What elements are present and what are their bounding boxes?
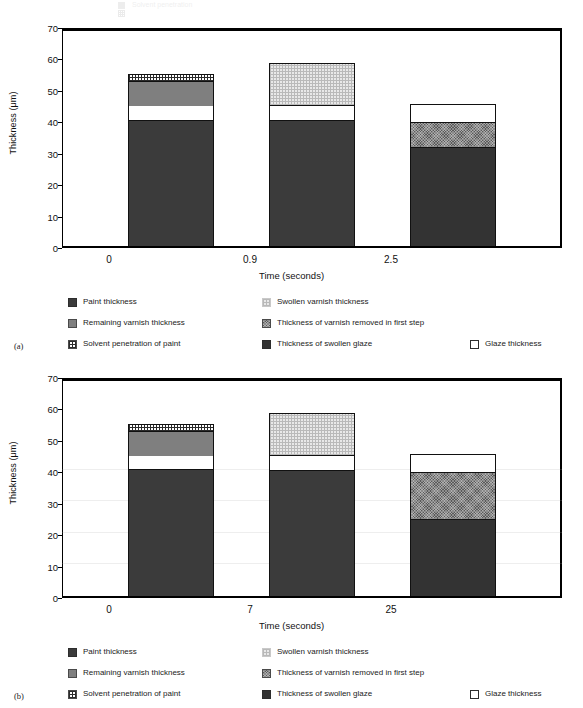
legend-swatch-varnish-removed-icon: [262, 669, 271, 678]
y-tick-20: 20: [28, 530, 58, 541]
legend-swatch-remaining-varnish-icon: [68, 319, 77, 328]
segment-glaze-thickness: [128, 456, 214, 470]
legend-a: Paint thickness Remaining varnish thickn…: [0, 297, 583, 361]
legend-label-swollen-glaze: Thickness of swollen glaze: [277, 339, 372, 349]
plot-area-a: Thickness (μm) 0 10 20 30 40 50 60 70: [0, 14, 583, 276]
legend-label-remaining-varnish: Remaining varnish thickness: [83, 668, 185, 678]
figure-page: Solvent penetration Thickness (μm) 0 10 …: [0, 0, 583, 708]
y-tick-0: 0: [28, 243, 58, 254]
legend-swatch-paint-icon: [68, 298, 77, 307]
legend-label-glaze: Glaze thickness: [485, 689, 541, 699]
legend-item-solvent-penetration: Solvent penetration of paint: [68, 339, 180, 349]
segment-solvent-penetration: [128, 424, 214, 432]
segment-varnish-removed-first-step: [410, 473, 496, 520]
segment-paint-thickness: [128, 470, 214, 596]
y-tick-70: 70: [28, 373, 58, 384]
legend-swatch-varnish-removed-icon: [262, 319, 271, 328]
segment-remaining-varnish-thickness: [128, 82, 214, 106]
legend-label-paint: Paint thickness: [83, 647, 137, 657]
segment-solvent-penetration: [128, 74, 214, 82]
legend-label-remaining-varnish: Remaining varnish thickness: [83, 318, 185, 328]
x-tick-a-0: 0: [106, 254, 112, 265]
x-tick-a-2: 2.5: [384, 254, 398, 265]
axis-line-bottom: [62, 596, 562, 599]
axes-frame-a: [62, 28, 562, 248]
legend-item-remaining-varnish: Remaining varnish thickness: [68, 318, 185, 328]
x-tick-b-0: 0: [106, 604, 112, 615]
x-tick-a-1: 0.9: [243, 254, 257, 265]
y-axis-ticks-a: 0 10 20 30 40 50 60 70: [28, 14, 58, 249]
segment-paint-thickness: [269, 121, 355, 245]
legend-label-solvent-penetration: Solvent penetration of paint: [83, 689, 180, 699]
segment-glaze-thickness: [269, 106, 355, 122]
legend-item-swollen-glaze: Thickness of swollen glaze: [262, 689, 372, 699]
segment-glaze-thickness: [269, 456, 355, 472]
y-tick-50: 50: [28, 435, 58, 446]
legend-label-swollen-glaze: Thickness of swollen glaze: [277, 689, 372, 699]
legend-item-paint-thickness: Paint thickness: [68, 647, 137, 657]
axis-line-left: [62, 378, 63, 598]
y-tick-50: 50: [28, 85, 58, 96]
y-axis-label-a: Thickness (μm): [8, 58, 18, 188]
axis-line-right: [560, 378, 563, 598]
legend-swatch-swollen-glaze-icon: [262, 690, 271, 699]
y-axis-ticks-b: 0 10 20 30 40 50 60 70: [28, 364, 58, 599]
y-tick-30: 30: [28, 148, 58, 159]
legend-label-paint: Paint thickness: [83, 297, 137, 307]
x-axis-label-b: Time (seconds): [0, 620, 583, 631]
segment-thickness-of-swollen-glaze: [410, 148, 496, 245]
legend-item-swollen-varnish: Swollen varnish thickness: [262, 297, 369, 307]
axes-frame-b: [62, 378, 562, 598]
legend-b: Paint thickness Remaining varnish thickn…: [0, 647, 583, 708]
y-tick-40: 40: [28, 467, 58, 478]
segment-glaze-thickness: [410, 104, 496, 123]
legend-item-swollen-varnish: Swollen varnish thickness: [262, 647, 369, 657]
axis-line-left: [62, 28, 63, 248]
legend-item-glaze-thickness: Glaze thickness: [470, 689, 541, 699]
legend-swatch-glaze-icon: [470, 690, 479, 699]
legend-item-solvent-penetration: Solvent penetration of paint: [68, 689, 180, 699]
y-tick-70: 70: [28, 23, 58, 34]
y-tick-60: 60: [28, 404, 58, 415]
segment-paint-thickness: [128, 121, 214, 245]
y-axis-label-b: Thickness (μm): [8, 408, 18, 538]
legend-label-varnish-removed: Thickness of varnish removed in first st…: [277, 668, 424, 678]
y-tick-40: 40: [28, 117, 58, 128]
legend-swatch-swollen-glaze-icon: [262, 340, 271, 349]
segment-remaining-varnish-thickness: [128, 432, 214, 456]
legend-swatch-remaining-varnish-icon: [68, 669, 77, 678]
tickmark: [58, 248, 62, 249]
axis-line-top: [62, 378, 562, 381]
artifact-text: Solvent penetration: [132, 1, 192, 8]
legend-item-paint-thickness: Paint thickness: [68, 297, 137, 307]
legend-label-swollen-varnish: Swollen varnish thickness: [277, 297, 369, 307]
x-tick-b-2: 25: [385, 604, 396, 615]
legend-label-glaze: Glaze thickness: [485, 339, 541, 349]
legend-item-varnish-removed: Thickness of varnish removed in first st…: [262, 668, 424, 678]
segment-glaze-thickness: [410, 454, 496, 473]
segment-paint-thickness: [269, 471, 355, 595]
y-tick-20: 20: [28, 180, 58, 191]
y-tick-60: 60: [28, 54, 58, 65]
segment-varnish-removed-first-step: [410, 123, 496, 148]
legend-item-swollen-glaze: Thickness of swollen glaze: [262, 339, 372, 349]
x-axis-label-a: Time (seconds): [0, 270, 583, 281]
legend-swatch-paint-icon: [68, 648, 77, 657]
legend-swatch-solvent-penetration-icon: [68, 690, 77, 699]
legend-label-solvent-penetration: Solvent penetration of paint: [83, 339, 180, 349]
segment-thickness-of-swollen-glaze: [410, 520, 496, 595]
y-tick-10: 10: [28, 561, 58, 572]
legend-swatch-glaze-icon: [470, 340, 479, 349]
legend-item-remaining-varnish: Remaining varnish thickness: [68, 668, 185, 678]
legend-swatch-swollen-varnish-icon: [262, 298, 271, 307]
axis-line-top: [62, 28, 562, 31]
y-tick-0: 0: [28, 593, 58, 604]
plot-area-b: Thickness (μm) 0 10 20 30 40 50 60 70: [0, 364, 583, 626]
x-tick-b-1: 7: [247, 604, 253, 615]
y-tick-10: 10: [28, 211, 58, 222]
legend-swatch-solvent-penetration-icon: [68, 340, 77, 349]
legend-item-varnish-removed: Thickness of varnish removed in first st…: [262, 318, 424, 328]
segment-swollen-varnish-thickness: [269, 413, 355, 455]
page-top-artifact: Solvent penetration: [118, 1, 214, 10]
artifact-swatch-solid: [118, 2, 125, 9]
